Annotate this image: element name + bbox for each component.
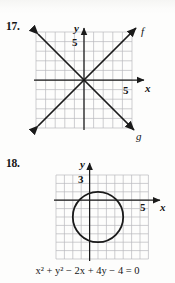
curve-f-label: f [141,25,146,37]
curve-g-label: g [136,130,142,142]
problem-17-figure: y x 5 5 f g [24,20,172,142]
curve-f [38,28,136,126]
circle-graph-svg: y x 3 5 [48,159,172,263]
curve-g [38,34,134,130]
x-axis-label: x [144,82,151,94]
y-axis-label: y [72,22,79,34]
line-graph-svg: y x 5 5 f g [24,20,172,142]
equation-text: x² + y² − 2x + 4y − 4 = 0 [35,265,139,276]
grid-lines [56,175,148,259]
y-tick-label-3: 3 [78,173,84,185]
x-tick-label-5: 5 [123,84,129,96]
problem-18-number: 18. [6,157,20,169]
y-axis-label: y [78,159,85,170]
problem-17: 17. [0,0,175,145]
problem-18-equation: x² + y² − 2x + 4y − 4 = 0 [0,265,175,276]
problem-17-number: 17. [6,20,20,32]
y-tick-label-5: 5 [72,36,78,48]
x-tick-label-5: 5 [140,201,146,213]
x-axis-label: x [159,201,166,213]
textbook-page: 17. [0,0,175,283]
problem-18-figure: y x 3 5 [48,159,172,263]
problem-18: 18. [0,145,175,283]
